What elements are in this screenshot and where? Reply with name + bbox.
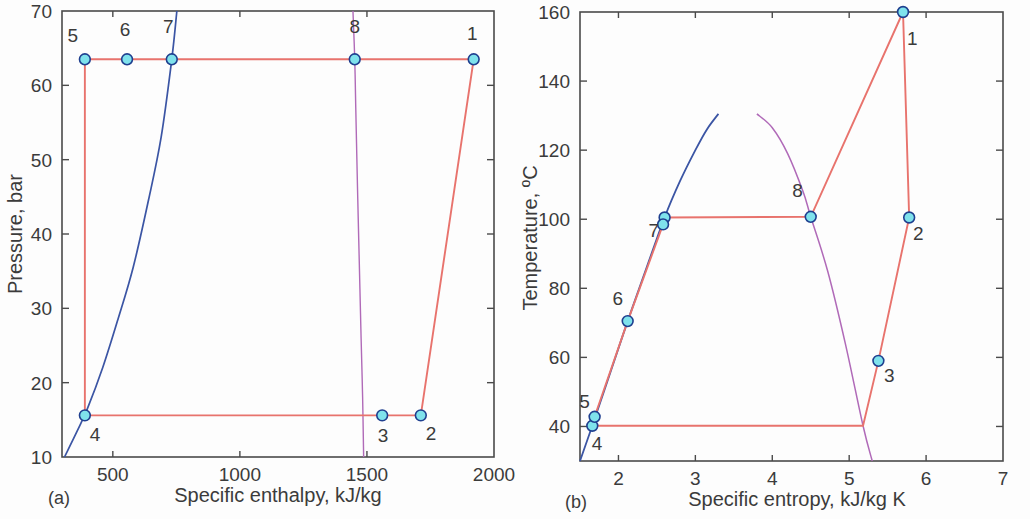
x-tick-label: 4 bbox=[767, 468, 778, 489]
state-point-label: 3 bbox=[884, 365, 895, 386]
state-point-marker bbox=[904, 212, 915, 223]
y-tick-label: 50 bbox=[31, 150, 52, 171]
x-axis-label: Specific enthalpy, kJ/kg bbox=[174, 484, 382, 506]
x-tick-label: 7 bbox=[998, 468, 1009, 489]
y-tick-label: 60 bbox=[549, 347, 570, 368]
ts-diagram-svg: 234567406080100120140160 12345678 Specif… bbox=[515, 0, 1030, 519]
state-point-label: 7 bbox=[649, 220, 660, 241]
state-point-marker bbox=[122, 54, 133, 65]
state-point-marker bbox=[468, 54, 479, 65]
x-tick-label: 1500 bbox=[346, 464, 388, 485]
state-point-label: 1 bbox=[907, 28, 918, 49]
y-tick-label: 70 bbox=[31, 1, 52, 22]
y-tick-label: 140 bbox=[538, 71, 570, 92]
ph-plot-area: 50010001500200010203040506070 12345678 bbox=[31, 1, 515, 485]
axis-ticks bbox=[580, 12, 1003, 461]
cycle-path bbox=[592, 12, 909, 426]
figure-container: 50010001500200010203040506070 12345678 S… bbox=[0, 0, 1030, 519]
y-tick-label: 160 bbox=[538, 2, 570, 23]
x-tick-label: 2000 bbox=[473, 464, 515, 485]
state-point-markers bbox=[587, 7, 915, 432]
y-tick-label: 30 bbox=[31, 298, 52, 319]
state-point-label: 6 bbox=[120, 19, 131, 40]
axis-tick-labels: 50010001500200010203040506070 bbox=[31, 1, 515, 485]
y-tick-label: 100 bbox=[538, 209, 570, 230]
state-point-label: 2 bbox=[426, 423, 437, 444]
state-point-marker bbox=[415, 410, 426, 421]
panel-ph-diagram: 50010001500200010203040506070 12345678 S… bbox=[0, 0, 515, 519]
y-tick-label: 10 bbox=[31, 447, 52, 468]
y-tick-label: 60 bbox=[31, 75, 52, 96]
state-point-marker bbox=[349, 54, 360, 65]
y-tick-label: 40 bbox=[31, 224, 52, 245]
state-point-label: 7 bbox=[163, 16, 174, 37]
state-point-marker bbox=[79, 54, 90, 65]
state-point-marker bbox=[166, 54, 177, 65]
panel-ts-diagram: 234567406080100120140160 12345678 Specif… bbox=[515, 0, 1030, 519]
saturated-liquid-curve bbox=[580, 114, 718, 461]
state-point-marker bbox=[377, 410, 388, 421]
y-tick-label: 80 bbox=[549, 278, 570, 299]
panel-label-a: (a) bbox=[48, 488, 70, 508]
x-tick-label: 6 bbox=[921, 468, 932, 489]
axis-tick-labels: 234567406080100120140160 bbox=[538, 2, 1008, 489]
state-point-label: 8 bbox=[349, 16, 360, 37]
y-axis-label: Temperature, ºC bbox=[519, 165, 541, 310]
state-point-marker bbox=[898, 7, 909, 18]
axis-ticks bbox=[62, 11, 494, 457]
cycle-path bbox=[85, 59, 474, 415]
state-point-label: 5 bbox=[67, 25, 78, 46]
state-point-label: 4 bbox=[90, 424, 101, 445]
saturated-vapor-curve bbox=[757, 114, 872, 461]
state-point-marker bbox=[873, 355, 884, 366]
x-axis-label: Specific entropy, kJ/kg K bbox=[688, 488, 906, 510]
state-point-marker bbox=[589, 411, 600, 422]
panel-label-b: (b) bbox=[565, 492, 587, 512]
y-tick-label: 40 bbox=[549, 416, 570, 437]
state-point-label: 4 bbox=[592, 433, 603, 454]
state-point-label: 6 bbox=[612, 288, 623, 309]
x-tick-label: 1000 bbox=[219, 464, 261, 485]
state-point-label: 1 bbox=[467, 23, 478, 44]
x-tick-label: 3 bbox=[690, 468, 701, 489]
ts-plot-area: 234567406080100120140160 12345678 bbox=[538, 2, 1008, 489]
ph-diagram-svg: 50010001500200010203040506070 12345678 S… bbox=[0, 0, 515, 519]
state-point-marker bbox=[805, 211, 816, 222]
state-point-marker bbox=[658, 219, 669, 230]
x-tick-label: 2 bbox=[613, 468, 624, 489]
state-point-markers bbox=[79, 54, 479, 421]
y-tick-label: 120 bbox=[538, 140, 570, 161]
plot-frame bbox=[580, 12, 1003, 461]
state-point-label: 8 bbox=[792, 180, 803, 201]
x-tick-label: 5 bbox=[844, 468, 855, 489]
state-point-label: 5 bbox=[579, 391, 590, 412]
state-point-label: 2 bbox=[913, 223, 924, 244]
y-axis-label: Pressure, bar bbox=[4, 174, 26, 294]
y-tick-label: 20 bbox=[31, 373, 52, 394]
x-tick-label: 500 bbox=[97, 464, 129, 485]
saturated-vapor-curve bbox=[353, 11, 364, 457]
state-point-marker bbox=[79, 410, 90, 421]
saturated-liquid-curve bbox=[65, 11, 177, 457]
state-point-label: 3 bbox=[378, 425, 389, 446]
plot-frame bbox=[62, 11, 494, 457]
state-point-labels: 12345678 bbox=[67, 16, 477, 446]
state-point-marker bbox=[622, 316, 633, 327]
